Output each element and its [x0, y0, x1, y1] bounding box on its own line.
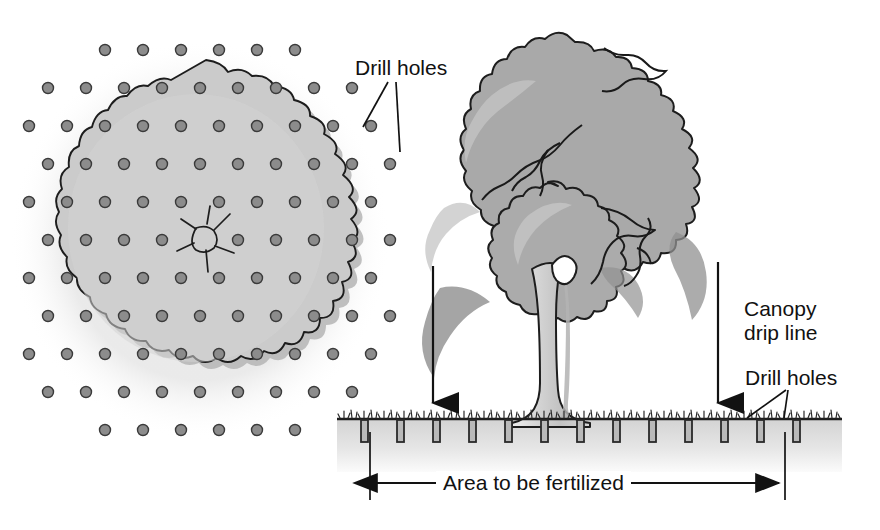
plan-drill-hole[interactable] — [233, 311, 244, 322]
plan-drill-hole[interactable] — [195, 83, 206, 94]
plan-drill-hole[interactable] — [252, 349, 263, 360]
plan-drill-hole[interactable] — [176, 425, 187, 436]
plan-drill-hole[interactable] — [328, 273, 339, 284]
plan-drill-hole[interactable] — [290, 349, 301, 360]
plan-drill-hole[interactable] — [157, 235, 168, 246]
plan-drill-hole[interactable] — [176, 349, 187, 360]
plan-drill-hole[interactable] — [100, 197, 111, 208]
plan-drill-hole[interactable] — [195, 159, 206, 170]
plan-drill-hole[interactable] — [24, 349, 35, 360]
plan-drill-hole[interactable] — [81, 159, 92, 170]
plan-drill-hole[interactable] — [385, 311, 396, 322]
plan-drill-hole[interactable] — [214, 121, 225, 132]
soil-drill-hole[interactable] — [469, 420, 476, 442]
soil-drill-hole[interactable] — [577, 420, 584, 442]
plan-drill-hole[interactable] — [100, 425, 111, 436]
plan-drill-hole[interactable] — [157, 83, 168, 94]
plan-drill-hole[interactable] — [157, 311, 168, 322]
plan-drill-hole[interactable] — [385, 159, 396, 170]
plan-drill-hole[interactable] — [119, 387, 130, 398]
plan-drill-hole[interactable] — [24, 197, 35, 208]
plan-drill-hole[interactable] — [271, 83, 282, 94]
plan-drill-hole[interactable] — [309, 235, 320, 246]
plan-drill-hole[interactable] — [252, 121, 263, 132]
plan-drill-hole[interactable] — [62, 273, 73, 284]
soil-drill-hole[interactable] — [361, 420, 368, 442]
plan-drill-hole[interactable] — [347, 235, 358, 246]
plan-drill-hole[interactable] — [81, 387, 92, 398]
soil-drill-hole[interactable] — [505, 420, 512, 442]
plan-drill-hole[interactable] — [290, 45, 301, 56]
plan-drill-hole[interactable] — [309, 159, 320, 170]
plan-drill-hole[interactable] — [195, 311, 206, 322]
plan-drill-hole[interactable] — [252, 45, 263, 56]
plan-drill-hole[interactable] — [81, 311, 92, 322]
plan-drill-hole[interactable] — [81, 235, 92, 246]
soil-drill-hole[interactable] — [433, 420, 440, 442]
plan-drill-hole[interactable] — [252, 425, 263, 436]
plan-drill-hole[interactable] — [214, 425, 225, 436]
plan-drill-hole[interactable] — [385, 235, 396, 246]
plan-drill-hole[interactable] — [24, 273, 35, 284]
plan-drill-hole[interactable] — [328, 349, 339, 360]
plan-drill-hole[interactable] — [138, 45, 149, 56]
plan-drill-hole[interactable] — [119, 311, 130, 322]
plan-drill-hole[interactable] — [43, 235, 54, 246]
plan-drill-hole[interactable] — [119, 235, 130, 246]
plan-drill-hole[interactable] — [138, 425, 149, 436]
plan-drill-hole[interactable] — [62, 121, 73, 132]
plan-drill-hole[interactable] — [100, 349, 111, 360]
plan-drill-hole[interactable] — [309, 311, 320, 322]
plan-drill-hole[interactable] — [290, 121, 301, 132]
plan-drill-hole[interactable] — [24, 121, 35, 132]
plan-drill-hole[interactable] — [347, 311, 358, 322]
plan-drill-hole[interactable] — [176, 45, 187, 56]
plan-drill-hole[interactable] — [271, 311, 282, 322]
plan-drill-hole[interactable] — [347, 387, 358, 398]
soil-drill-hole[interactable] — [649, 420, 656, 442]
soil-drill-hole[interactable] — [721, 420, 728, 442]
soil-drill-hole[interactable] — [685, 420, 692, 442]
plan-drill-hole[interactable] — [271, 159, 282, 170]
plan-drill-hole[interactable] — [100, 273, 111, 284]
plan-drill-hole[interactable] — [43, 311, 54, 322]
plan-drill-hole[interactable] — [366, 273, 377, 284]
plan-drill-hole[interactable] — [176, 273, 187, 284]
plan-drill-hole[interactable] — [43, 159, 54, 170]
plan-drill-hole[interactable] — [62, 197, 73, 208]
plan-drill-hole[interactable] — [100, 45, 111, 56]
plan-drill-hole[interactable] — [214, 197, 225, 208]
plan-drill-hole[interactable] — [157, 159, 168, 170]
plan-drill-hole[interactable] — [347, 83, 358, 94]
soil-drill-hole[interactable] — [793, 420, 800, 442]
plan-drill-hole[interactable] — [347, 159, 358, 170]
plan-drill-hole[interactable] — [290, 197, 301, 208]
plan-drill-hole[interactable] — [271, 235, 282, 246]
plan-drill-hole[interactable] — [233, 387, 244, 398]
plan-drill-hole[interactable] — [43, 387, 54, 398]
plan-drill-hole[interactable] — [233, 83, 244, 94]
plan-drill-hole[interactable] — [366, 197, 377, 208]
plan-drill-hole[interactable] — [309, 387, 320, 398]
plan-drill-hole[interactable] — [119, 83, 130, 94]
soil-drill-hole[interactable] — [397, 420, 404, 442]
plan-drill-hole[interactable] — [290, 273, 301, 284]
plan-drill-hole[interactable] — [62, 349, 73, 360]
plan-drill-hole[interactable] — [252, 197, 263, 208]
plan-drill-hole[interactable] — [271, 387, 282, 398]
plan-drill-hole[interactable] — [138, 273, 149, 284]
plan-drill-hole[interactable] — [176, 121, 187, 132]
plan-drill-hole[interactable] — [157, 387, 168, 398]
plan-drill-hole[interactable] — [233, 159, 244, 170]
plan-drill-hole[interactable] — [195, 387, 206, 398]
plan-drill-hole[interactable] — [328, 197, 339, 208]
plan-drill-hole[interactable] — [214, 273, 225, 284]
plan-drill-hole[interactable] — [138, 349, 149, 360]
plan-drill-hole[interactable] — [138, 121, 149, 132]
plan-drill-hole[interactable] — [176, 197, 187, 208]
plan-drill-hole[interactable] — [366, 349, 377, 360]
soil-drill-hole[interactable] — [613, 420, 620, 442]
plan-drill-hole[interactable] — [81, 83, 92, 94]
plan-drill-hole[interactable] — [100, 121, 111, 132]
plan-drill-hole[interactable] — [43, 83, 54, 94]
